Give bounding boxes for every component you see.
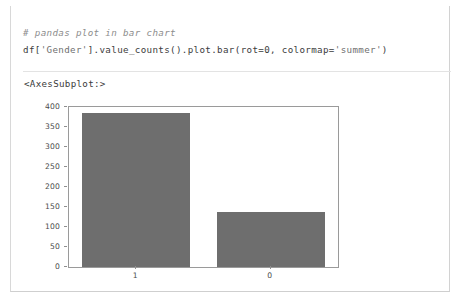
y-tick-mark (64, 266, 67, 267)
y-tick-mark (64, 206, 67, 207)
y-tick-label: 150 (45, 202, 60, 211)
notebook-cell-card: # pandas plot in bar chart df['Gender'].… (10, 6, 450, 292)
code-output-divider (23, 71, 451, 72)
code-string-gender: 'Gender' (41, 44, 88, 55)
bar-chart-figure: 050100150200250300350400 10 (27, 96, 347, 288)
y-tick-label: 300 (45, 142, 60, 151)
code-token-2: ].value_counts().plot.bar(rot=0, colorma… (88, 44, 335, 55)
x-tick-mark (270, 266, 271, 269)
y-tick-mark (64, 146, 67, 147)
plot-area (69, 107, 338, 267)
y-axis-tick-labels: 050100150200250300350400 (27, 96, 60, 288)
code-comment-line: # pandas plot in bar chart (23, 24, 451, 41)
y-tick-label: 200 (45, 182, 60, 191)
y-tick-label: 0 (55, 262, 60, 271)
output-repr-text: <AxesSubplot:> (24, 78, 106, 89)
code-token-1: df[ (23, 44, 41, 55)
y-tick-mark (64, 226, 67, 227)
bar-0 (217, 212, 325, 267)
y-tick-mark (64, 166, 67, 167)
y-tick-label: 50 (50, 242, 60, 251)
y-tick-label: 350 (45, 122, 60, 131)
code-statement-line: df['Gender'].value_counts().plot.bar(rot… (23, 41, 451, 58)
y-tick-label: 250 (45, 162, 60, 171)
code-token-3: ) (382, 44, 388, 55)
axes-frame (68, 106, 339, 268)
code-string-summer: 'summer' (335, 44, 382, 55)
code-block[interactable]: # pandas plot in bar chart df['Gender'].… (23, 24, 451, 58)
x-tick-label-1: 1 (133, 271, 138, 280)
y-tick-label: 400 (45, 102, 60, 111)
x-tick-label-0: 0 (267, 271, 272, 280)
y-tick-mark (64, 186, 67, 187)
y-tick-label: 100 (45, 222, 60, 231)
y-tick-mark (64, 126, 67, 127)
bar-1 (82, 113, 190, 267)
y-tick-mark (64, 246, 67, 247)
x-tick-mark (135, 266, 136, 269)
y-tick-mark (64, 106, 67, 107)
